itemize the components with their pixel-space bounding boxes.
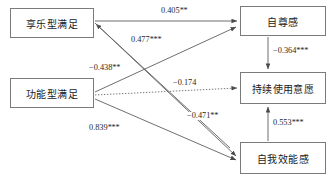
edge-label-hedonic-efficacy: −0.471**: [186, 112, 219, 120]
coefficient-value: 0.477: [131, 35, 150, 44]
edge-label-efficacy-intention: 0.553***: [272, 119, 305, 127]
coefficient-value: 0.553: [273, 118, 292, 127]
coefficient-value: −0.174: [173, 78, 196, 87]
significance-stars: ***: [108, 123, 120, 132]
significance-stars: ***: [150, 35, 162, 44]
edge-label-functional-efficacy: 0.839***: [88, 124, 121, 132]
node-functional-gratification[interactable]: 功能型满足: [10, 78, 94, 108]
edge-line-hedonic-efficacy: [95, 23, 236, 156]
edge-line-functional-esteem: [95, 27, 236, 92]
node-label: 自尊感: [267, 14, 298, 29]
significance-stars: **: [112, 63, 120, 72]
coefficient-value: 0.405: [161, 6, 180, 15]
edge-label-functional-intention: −0.174: [172, 79, 197, 87]
significance-stars: **: [180, 6, 188, 15]
node-self-efficacy[interactable]: 自我效能感: [240, 142, 326, 174]
node-label: 自我效能感: [257, 151, 309, 166]
edge-label-functional-esteem: 0.477***: [130, 36, 163, 44]
edge-label-hedonic-esteem: 0.405**: [160, 7, 189, 15]
edge-label-esteem-intention: −0.364***: [272, 47, 309, 55]
node-label: 享乐型满足: [26, 16, 78, 31]
node-hedonic-gratification[interactable]: 享乐型满足: [10, 8, 94, 38]
edge-label-functional-hedonic: −0.438**: [88, 64, 121, 72]
significance-stars: ***: [296, 46, 308, 55]
path-diagram: 享乐型满足 功能型满足 自尊感 持续使用意愿 自我效能感 0.405** 0.4…: [0, 0, 333, 184]
node-label: 功能型满足: [26, 86, 78, 101]
coefficient-value: −0.364: [273, 46, 296, 55]
coefficient-value: −0.438: [89, 63, 112, 72]
node-self-esteem[interactable]: 自尊感: [240, 6, 326, 36]
node-continued-use-intention[interactable]: 持续使用意愿: [240, 72, 326, 104]
node-label: 持续使用意愿: [252, 81, 314, 96]
significance-stars: ***: [292, 118, 304, 127]
coefficient-value: 0.839: [89, 123, 108, 132]
coefficient-value: −0.471: [187, 111, 210, 120]
significance-stars: **: [210, 111, 218, 120]
